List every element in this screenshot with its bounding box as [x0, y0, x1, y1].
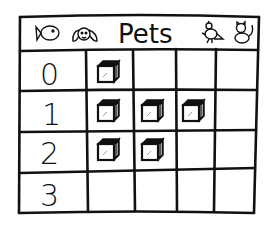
col-line-4 [214, 49, 216, 211]
dog-icon [73, 28, 97, 41]
pets-pictograph-chart: Pets 0 1 2 3 [0, 0, 276, 227]
cube-icon [183, 100, 204, 121]
cube-icon [142, 100, 163, 121]
row-label-2: 2 [40, 136, 59, 171]
fish-icon [36, 26, 59, 40]
pictograph-symbols [98, 61, 204, 160]
frame-top [20, 15, 259, 17]
row-label-1: 1 [42, 97, 61, 132]
row-label-3: 3 [40, 178, 59, 213]
header-divider [20, 49, 258, 51]
cube-icon [98, 61, 119, 82]
cube-icon [142, 139, 163, 160]
chart-title: Pets [118, 19, 173, 49]
cube-icon [98, 100, 119, 121]
frame-right [254, 17, 259, 213]
cat-icon [235, 22, 253, 43]
bird-icon [202, 21, 223, 43]
cube-icon [98, 139, 119, 160]
col-line-1 [86, 51, 88, 212]
col-line-2 [133, 50, 135, 211]
col-line-3 [176, 49, 177, 211]
frame-left [19, 17, 20, 213]
row-label-0: 0 [40, 57, 59, 92]
